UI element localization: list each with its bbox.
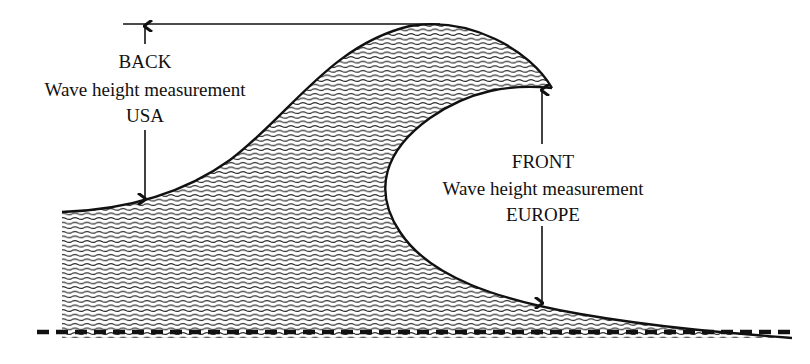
front-label: FRONT Wave height measurement EUROPE xyxy=(442,151,644,225)
front-label-description: Wave height measurement xyxy=(442,178,644,199)
wave-water-body xyxy=(62,24,792,338)
front-label-region: EUROPE xyxy=(506,204,580,225)
back-label-title: BACK xyxy=(119,51,172,72)
back-label-region: USA xyxy=(126,105,164,126)
wave-height-diagram: BACK Wave height measurement USA FRONT W… xyxy=(0,0,810,364)
back-label-description: Wave height measurement xyxy=(44,79,246,100)
front-label-title: FRONT xyxy=(512,151,575,172)
back-label: BACK Wave height measurement USA xyxy=(44,51,246,126)
